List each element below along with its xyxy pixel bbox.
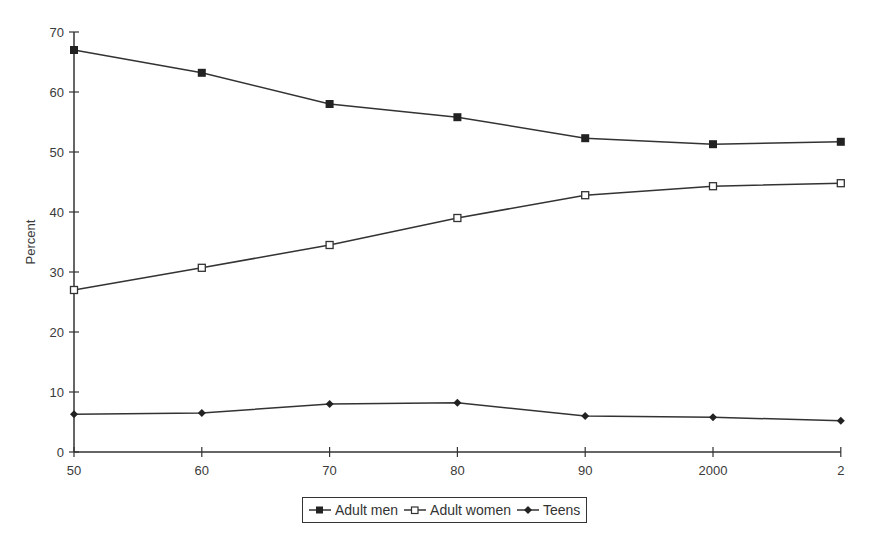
data-point	[198, 409, 206, 417]
data-point	[71, 287, 78, 294]
y-axis-title: Percent	[23, 219, 38, 264]
data-point	[70, 46, 78, 54]
data-point	[837, 180, 844, 187]
x-axis: 506070809020002	[67, 447, 845, 478]
data-point	[710, 183, 717, 190]
y-tick-label: 60	[50, 85, 64, 100]
data-point	[326, 100, 334, 108]
open-square-marker-icon	[404, 505, 426, 515]
data-point	[454, 215, 461, 222]
y-axis: 010203040506070	[50, 25, 79, 460]
y-tick-label: 70	[50, 25, 64, 40]
legend-label: Adult men	[335, 502, 398, 518]
legend-item-adult-men: Adult men	[309, 502, 398, 518]
data-point	[453, 399, 461, 407]
data-point	[326, 400, 334, 408]
x-tick-label: 50	[67, 463, 81, 478]
legend-label: Teens	[543, 502, 580, 518]
line-chart: 010203040506070 506070809020002 Percent	[0, 0, 876, 544]
data-point	[70, 410, 78, 418]
data-point	[709, 413, 717, 421]
chart-legend: Adult men Adult women Teens	[302, 497, 587, 523]
filled-square-marker-icon	[309, 505, 331, 515]
data-point	[581, 412, 589, 420]
y-tick-label: 50	[50, 145, 64, 160]
data-point	[198, 69, 206, 77]
x-tick-label: 2000	[699, 463, 728, 478]
x-tick-label: 80	[450, 463, 464, 478]
series-teens	[70, 399, 845, 425]
y-tick-label: 10	[50, 385, 64, 400]
series-adult-women	[71, 180, 845, 294]
x-tick-label: 70	[322, 463, 336, 478]
series-adult-men	[70, 46, 845, 148]
y-tick-label: 20	[50, 325, 64, 340]
y-tick-label: 30	[50, 265, 64, 280]
data-point	[709, 140, 717, 148]
y-tick-label: 40	[50, 205, 64, 220]
legend-label: Adult women	[430, 502, 511, 518]
data-point	[198, 264, 205, 271]
filled-diamond-marker-icon	[517, 505, 539, 515]
data-point	[837, 138, 845, 146]
data-point	[453, 113, 461, 121]
data-point	[582, 192, 589, 199]
series-layer	[70, 46, 845, 425]
legend-item-adult-women: Adult women	[404, 502, 511, 518]
data-point	[326, 242, 333, 249]
x-tick-label: 2	[837, 463, 844, 478]
x-tick-label: 60	[195, 463, 209, 478]
data-point	[837, 417, 845, 425]
legend-item-teens: Teens	[517, 502, 580, 518]
y-tick-label: 0	[57, 445, 64, 460]
data-point	[581, 134, 589, 142]
x-tick-label: 90	[578, 463, 592, 478]
